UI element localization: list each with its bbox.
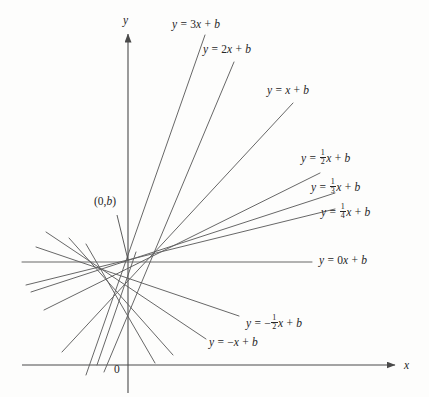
label-line-slope-one-half: y = 12x + b [301,149,350,166]
origin-label: 0 [114,364,120,376]
fraction-one-third: 13 [330,178,336,195]
lblnh-plus: + [283,317,296,329]
lbln1-plus: + [239,336,252,348]
line-slope-neg-one [46,232,206,339]
lbl1-b: b [303,84,309,96]
lbl2-eq: = [208,43,221,55]
lbl3-eq: = [177,18,190,30]
lblhalf-eq: = [306,152,319,164]
lblnh-den: 2 [271,323,277,331]
lbl1-eq: = [272,84,285,96]
label-line-slope-3: y = 3x + b [172,19,220,31]
lbln1-eq: = [214,336,227,348]
intercept-label-suffix: ) [112,195,116,207]
lblhalf-den: 2 [320,158,326,166]
fraction-one-half-negative: 12 [271,314,277,331]
label-line-slope-one-third: y = 13x + b [311,178,360,195]
intercept-leader-line [117,215,128,260]
lblq-den: 4 [340,212,346,220]
line-slope-2 [104,62,234,372]
fraction-one-half: 12 [320,149,326,166]
label-line-slope-one-quarter: y = 14x + b [321,203,370,220]
lblnh-minus: − [264,317,271,329]
lbl0-plus: + [348,254,361,266]
line-family-figure: y x 0 (0,b) y = 3x + b y = 2x + b y = x … [0,0,429,397]
label-line-slope-2: y = 2x + b [203,44,251,56]
lbln1-b: b [252,336,258,348]
intercept-label-prefix: (0, [94,195,106,207]
lbl0-eq: = [324,254,337,266]
lblnh-eq: = [251,317,264,329]
lbln1-minus: − [227,336,234,348]
lbl2-plus: + [232,43,245,55]
label-line-slope-1: y = x + b [267,85,309,97]
lblnh-b: b [296,317,302,329]
lblq-plus: + [352,206,365,218]
lblhalf-plus: + [332,152,345,164]
lbl1-plus: + [290,84,303,96]
lblthird-b: b [355,181,361,193]
label-line-slope-neg-one: y = −x + b [209,337,258,349]
lbl2-b: b [245,43,251,55]
label-line-slope-0: y = 0x + b [319,255,367,267]
lblthird-den: 3 [330,187,336,195]
fraction-one-quarter: 14 [340,203,346,220]
lbl0-b: b [361,254,367,266]
label-line-slope-neg-one-half: y = −12x + b [246,314,302,331]
line-slope-one-third [31,193,335,292]
line-slope-one-half [44,173,320,310]
x-axis-label: x [404,360,409,372]
lblthird-eq: = [316,181,329,193]
lbl3-plus: + [201,18,214,30]
lblhalf-b: b [345,152,351,164]
lbl3-b: b [214,18,220,30]
y-axis-label: y [123,15,128,27]
lblq-b: b [365,206,371,218]
line-slope-one-quarter [26,209,335,285]
intercept-point-label: (0,b) [94,196,116,208]
lblthird-plus: + [342,181,355,193]
lblq-eq: = [326,206,339,218]
